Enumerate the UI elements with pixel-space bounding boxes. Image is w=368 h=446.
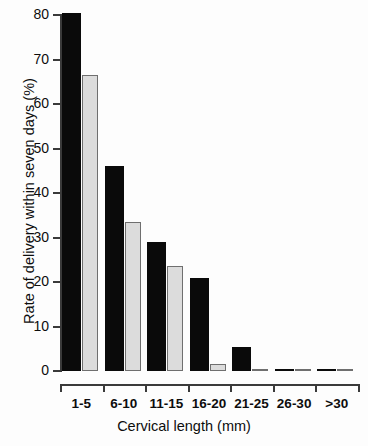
bar-gray-series-1-5 <box>82 75 98 371</box>
x-tick-label-6-10: 6-10 <box>103 396 146 411</box>
bar-gray-series-16-20 <box>210 364 226 371</box>
x-tick-3 <box>188 384 190 392</box>
bar-black-series-21-25 <box>232 347 251 371</box>
bar-black-series-6-10 <box>105 166 124 371</box>
bar-black-series->30 <box>317 369 336 371</box>
y-tick-label-30: 30 <box>0 229 49 245</box>
bar-gray-series-21-25 <box>252 369 268 371</box>
x-tick-label-26-30: 26-30 <box>273 396 316 411</box>
y-tick-label-10: 10 <box>0 318 49 334</box>
bar-gray-series-26-30 <box>295 369 311 371</box>
y-tick-label-60: 60 <box>0 95 49 111</box>
bar-gray-series-6-10 <box>125 222 141 371</box>
x-axis-line <box>60 384 358 386</box>
chart-figure: Rate of delivery within seven days (%) 0… <box>0 0 368 446</box>
bar-black-series-1-5 <box>62 13 81 371</box>
x-tick-6 <box>315 384 317 392</box>
bar-gray-series->30 <box>337 369 353 371</box>
x-axis-title: Cervical length (mm) <box>0 418 368 434</box>
x-tick-label-1-5: 1-5 <box>60 396 103 411</box>
bar-black-series-26-30 <box>275 369 294 371</box>
x-tick-label-16-20: 16-20 <box>188 396 231 411</box>
x-tick-label-11-15: 11-15 <box>145 396 188 411</box>
y-tick-label-40: 40 <box>0 184 49 200</box>
bar-black-series-16-20 <box>190 278 209 371</box>
x-tick-4 <box>230 384 232 392</box>
y-axis-title: Rate of delivery within seven days (%) <box>21 41 37 361</box>
x-tick-5 <box>273 384 275 392</box>
plot-area <box>60 15 358 371</box>
x-tick-0 <box>60 384 62 392</box>
y-tick-label-50: 50 <box>0 140 49 156</box>
y-tick-label-0: 0 <box>0 362 49 378</box>
x-tick-label->30: >30 <box>315 396 358 411</box>
y-tick-label-70: 70 <box>0 51 49 67</box>
y-tick-label-20: 20 <box>0 273 49 289</box>
x-tick-1 <box>103 384 105 392</box>
bar-gray-series-11-15 <box>167 266 183 371</box>
bar-black-series-11-15 <box>147 242 166 371</box>
x-tick-2 <box>145 384 147 392</box>
x-tick-7 <box>358 384 360 392</box>
x-tick-label-21-25: 21-25 <box>230 396 273 411</box>
y-tick-label-80: 80 <box>0 6 49 22</box>
